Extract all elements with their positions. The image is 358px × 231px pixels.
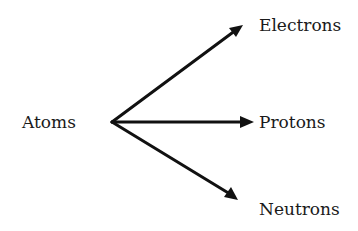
arrowhead-icon	[224, 187, 238, 200]
target-label-electrons: Electrons	[259, 17, 341, 34]
arrow-to-electrons	[112, 25, 243, 122]
source-label-atoms: Atoms	[22, 114, 76, 131]
arrow-to-neutrons	[112, 122, 238, 200]
arrow-to-protons	[112, 116, 254, 128]
arrowhead-icon	[240, 116, 254, 128]
target-label-neutrons: Neutrons	[259, 201, 340, 218]
target-label-protons: Protons	[259, 114, 326, 131]
